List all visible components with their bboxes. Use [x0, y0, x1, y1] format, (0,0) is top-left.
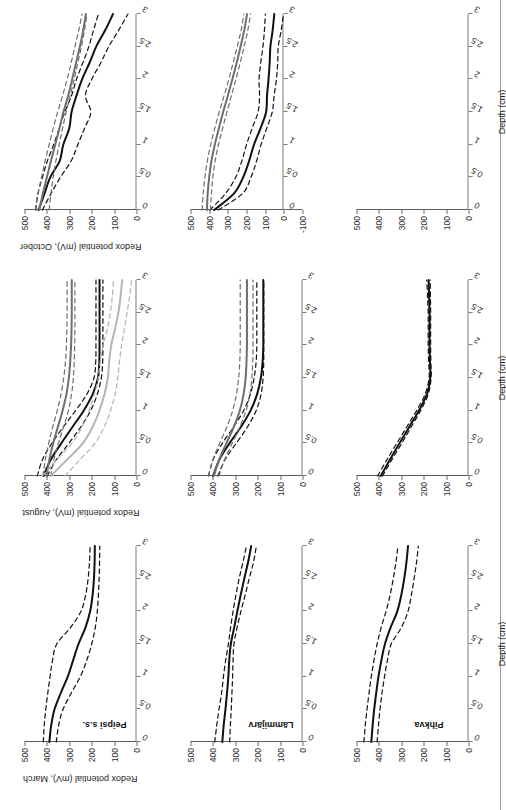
y-tick-label: 400 — [41, 216, 51, 230]
x-tick — [136, 13, 140, 14]
x-tick-label: 1 — [306, 401, 315, 412]
x-tick — [302, 610, 306, 611]
y-tick-label: 300 — [222, 216, 232, 230]
x-tick-label: 3 — [306, 536, 315, 547]
x-tick — [302, 312, 306, 313]
y-tick-label: 0 — [131, 482, 141, 487]
series-layer — [356, 280, 468, 476]
y-tick-label: 100 — [441, 482, 451, 496]
x-tick — [136, 475, 140, 476]
x-tick — [468, 578, 472, 579]
x-tick-label: 2.5 — [303, 567, 318, 582]
plot-area: -100010020030040050000.511.522.53 — [190, 14, 302, 210]
series-line — [380, 280, 430, 476]
x-tick-label: 1.5 — [303, 632, 318, 647]
x-tick — [302, 741, 306, 742]
x-tick — [468, 676, 472, 677]
x-tick — [136, 410, 140, 411]
series-layer — [190, 280, 302, 476]
series-line — [208, 280, 256, 476]
x-tick — [136, 708, 140, 709]
x-tick-label: 2 — [306, 335, 315, 346]
y-tick-label: 300 — [64, 748, 74, 762]
x-tick-label: 2.5 — [303, 301, 318, 316]
x-tick — [136, 344, 140, 345]
x-tick-label: 0 — [140, 200, 149, 211]
y-tick-label: 400 — [373, 748, 383, 762]
x-tick-label: 0.5 — [137, 432, 152, 447]
y-tick-label: 100 — [441, 216, 451, 230]
y-tick — [190, 476, 191, 480]
x-tick-label: 0 — [140, 732, 149, 743]
x-tick — [468, 610, 472, 611]
x-tick-label: 3 — [140, 270, 149, 281]
series-layer — [24, 280, 136, 476]
y-tick-label: 400 — [373, 216, 383, 230]
x-tick — [468, 78, 472, 79]
series-line — [210, 14, 250, 210]
x-tick — [468, 377, 472, 378]
y-tick-label: 500 — [185, 748, 195, 762]
y-tick-label: 400 — [41, 748, 51, 762]
series-line — [377, 546, 418, 742]
x-tick-label: 2.5 — [137, 35, 152, 50]
y-tick-label: 100 — [275, 748, 285, 762]
x-tick-label: 0.5 — [469, 166, 484, 181]
panel-pihkva-october: Depth (cm)010020030040050000.511.522.53 — [340, 0, 506, 254]
x-tick-label: 0 — [472, 466, 481, 477]
plot-area: 010020030040050000.511.522.53 — [24, 14, 136, 210]
x-tick-label: 2.5 — [469, 301, 484, 316]
y-tick-label: 200 — [86, 748, 96, 762]
x-tick-label: 0.5 — [469, 698, 484, 713]
x-tick — [136, 312, 140, 313]
x-tick-label: 1 — [140, 135, 149, 146]
y-tick-label: 400 — [207, 482, 217, 496]
x-tick-label: 1.5 — [469, 632, 484, 647]
y-tick — [302, 210, 303, 214]
panel-l-mmij-rv-august: 010020030040050000.511.522.53 — [174, 254, 340, 520]
y-tick — [114, 476, 115, 480]
x-tick — [468, 144, 472, 145]
x-tick — [136, 279, 140, 280]
x-tick-label: 0 — [306, 466, 315, 477]
y-tick — [91, 210, 92, 214]
x-tick — [136, 78, 140, 79]
panel-peipsi-s-s-august: Redox potential (mV), August010020030040… — [8, 254, 174, 520]
y-tick-label: 300 — [64, 216, 74, 230]
panel-pihkva-august: Depth (cm)010020030040050000.511.522.53 — [340, 254, 506, 520]
y-tick-label: 300 — [64, 482, 74, 496]
x-tick — [136, 377, 140, 378]
y-tick-label: 0 — [131, 216, 141, 221]
x-tick-label: 0.5 — [469, 432, 484, 447]
series-layer — [190, 546, 302, 742]
y-tick — [91, 476, 92, 480]
y-tick-label: 500 — [351, 482, 361, 496]
y-tick — [468, 210, 469, 214]
x-tick — [468, 13, 472, 14]
x-tick — [136, 545, 140, 546]
y-tick — [356, 742, 357, 746]
y-tick-label: 400 — [207, 748, 217, 762]
x-tick — [302, 344, 306, 345]
y-tick — [257, 476, 258, 480]
x-tick — [468, 176, 472, 177]
series-layer — [24, 546, 136, 742]
plot-area: 010020030040050000.511.522.53 — [356, 546, 468, 742]
x-tick-label: 3 — [140, 4, 149, 15]
x-tick-label: 0 — [306, 732, 315, 743]
y-tick-label: 500 — [351, 748, 361, 762]
y-tick — [265, 210, 266, 214]
x-tick — [136, 610, 140, 611]
x-tick-label: 2.5 — [469, 35, 484, 50]
y-tick — [114, 742, 115, 746]
y-tick — [235, 476, 236, 480]
x-tick-label: 2 — [140, 601, 149, 612]
y-tick — [24, 476, 25, 480]
y-tick — [446, 210, 447, 214]
y-tick-label: 0 — [463, 216, 473, 221]
series-line — [363, 546, 397, 742]
x-tick-label: 1.5 — [137, 366, 152, 381]
y-tick-label: 300 — [230, 748, 240, 762]
x-tick — [468, 643, 472, 644]
